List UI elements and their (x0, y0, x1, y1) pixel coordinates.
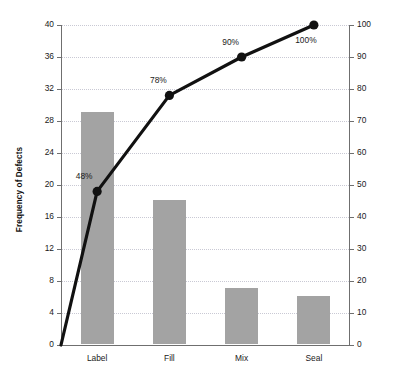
y-axis-right-tick-label: 100 (357, 20, 371, 28)
y-axis-right-tick (350, 121, 354, 122)
y-axis-left-tick-label: 36 (45, 52, 54, 60)
y-axis-left-title: Frequency of Defects (15, 125, 24, 255)
y-axis-right-tick (350, 89, 354, 90)
y-axis-right-tick (350, 153, 354, 154)
y-axis-right-tick (350, 249, 354, 250)
cumulative-line-series (61, 25, 350, 346)
y-axis-left-tick-label: 16 (45, 212, 54, 220)
y-axis-right-tick (350, 313, 354, 314)
data-point-marker (309, 20, 318, 29)
pareto-chart: Frequency of Defects Cumulative Percenta… (0, 0, 419, 371)
y-axis-left-tick-label: 32 (45, 84, 54, 92)
y-axis-left-tick-label: 4 (49, 308, 54, 316)
y-axis-left-tick-label: 20 (45, 180, 54, 188)
y-axis-right-tick (350, 281, 354, 282)
y-axis-left-tick-label: 28 (45, 116, 54, 124)
y-axis-right-tick (350, 57, 354, 58)
y-axis-left-tick-label: 8 (49, 276, 54, 284)
y-axis-right-tick-label: 90 (357, 52, 366, 60)
x-axis-category-label: Mix (206, 353, 278, 363)
cumulative-points (93, 20, 319, 196)
cumulative-polyline (61, 25, 314, 345)
y-axis-right-tick-label: 50 (357, 180, 366, 188)
y-axis-right-tick-label: 40 (357, 212, 366, 220)
plot-area: 0481216202428323640 01020304050607080901… (61, 25, 350, 345)
y-axis-right-tick-label: 0 (357, 340, 362, 348)
x-axis-category-label: Label (61, 353, 133, 363)
x-axis-category-label: Seal (278, 353, 350, 363)
cumulative-point-label: 78% (140, 75, 176, 85)
y-axis-right-tick (350, 345, 354, 346)
y-axis-left-tick-label: 0 (49, 340, 54, 348)
y-axis-right-tick-label: 80 (357, 84, 366, 92)
data-point-marker (237, 52, 246, 61)
y-axis-right-tick-label: 60 (357, 148, 366, 156)
y-axis-left-tick-label: 40 (45, 20, 54, 28)
data-point-marker (165, 91, 174, 100)
y-axis-right-tick-label: 70 (357, 116, 366, 124)
data-point-marker (93, 187, 102, 196)
x-axis-category-label: Fill (133, 353, 205, 363)
y-axis-right-tick-label: 30 (357, 244, 366, 252)
cumulative-point-label: 100% (288, 35, 324, 45)
cumulative-point-label: 48% (66, 171, 102, 181)
y-axis-right-tick (350, 185, 354, 186)
y-axis-right-tick (350, 25, 354, 26)
y-axis-right-tick-label: 10 (357, 308, 366, 316)
y-axis-left-tick-label: 12 (45, 244, 54, 252)
y-axis-right-tick (350, 217, 354, 218)
cumulative-point-label: 90% (213, 37, 249, 47)
y-axis-left-tick-label: 24 (45, 148, 54, 156)
y-axis-right-tick-label: 20 (357, 276, 366, 284)
